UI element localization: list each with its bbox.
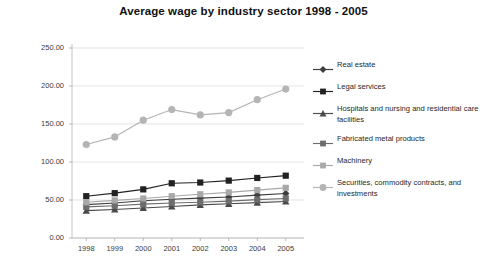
legend-marker-square-icon [312,83,334,94]
data-point-marker [197,191,203,197]
chart-container: Average wage by industry sector 1998 - 2… [0,0,487,257]
legend-marker-circle-icon [312,179,334,190]
data-point-marker [320,66,327,73]
legend-item-label: Securities, commodity contracts, and inv… [337,178,484,199]
data-point-marker [83,199,89,205]
data-point-marker [140,201,146,207]
data-point-marker [254,197,260,203]
x-axis-tick-label: 2005 [269,244,303,253]
data-point-marker [112,203,118,209]
legend-marker-diamond-icon [312,61,334,72]
data-point-marker [320,163,326,169]
legend-marker-square-icon [312,135,334,146]
y-axis-tick-label: 0.00 [24,233,64,242]
data-point-marker [254,96,261,103]
data-point-marker [320,141,326,147]
legend-item[interactable]: Real estate [312,60,484,73]
data-point-marker [225,109,232,116]
data-point-marker [168,106,175,113]
y-axis-tick-label: 200.00 [24,81,64,90]
legend-item-label: Hospitals and nursing and residential ca… [337,104,484,125]
data-point-marker [226,198,232,204]
y-axis-tick-label: 50.00 [24,195,64,204]
legend-item-label: Machinery [337,156,372,167]
axis-lines [69,44,304,241]
data-point-marker [83,193,89,199]
legend-item[interactable]: Fabricated metal products [312,134,484,147]
data-point-marker [197,199,203,205]
legend-item-label: Legal services [337,82,386,93]
data-point-marker [140,186,146,192]
y-axis-tick-label: 250.00 [24,43,64,52]
legend-item[interactable]: Hospitals and nursing and residential ca… [312,104,484,125]
data-point-marker [111,133,118,140]
data-point-marker [283,195,289,201]
data-point-marker [140,195,146,201]
y-axis-tick-label: 150.00 [24,119,64,128]
series-lines [83,85,290,213]
data-point-marker [197,111,204,118]
data-point-marker [169,180,175,186]
data-point-marker [112,190,118,196]
legend-marker-triangle-icon [312,105,334,116]
legend-item-label: Fabricated metal products [337,134,425,145]
data-point-marker [169,200,175,206]
data-point-marker [283,185,289,191]
data-point-marker [169,193,175,199]
series-5 [83,85,290,148]
y-axis-tick-label: 100.00 [24,157,64,166]
data-point-marker [226,178,232,184]
legend-marker-square-icon [312,157,334,168]
data-point-marker [226,189,232,195]
legend-item[interactable]: Machinery [312,156,484,169]
data-point-marker [282,85,289,92]
data-point-marker [112,197,118,203]
data-point-marker [320,89,326,95]
chart-legend: Real estateLegal servicesHospitals and n… [312,60,484,208]
data-point-marker [197,179,203,185]
legend-item[interactable]: Legal services [312,82,484,95]
legend-item-label: Real estate [337,60,375,71]
data-point-marker [83,141,90,148]
data-point-marker [254,187,260,193]
data-point-marker [283,173,289,179]
legend-item[interactable]: Securities, commodity contracts, and inv… [312,178,484,199]
data-point-marker [140,117,147,124]
data-point-marker [320,184,327,191]
data-point-marker [254,175,260,181]
